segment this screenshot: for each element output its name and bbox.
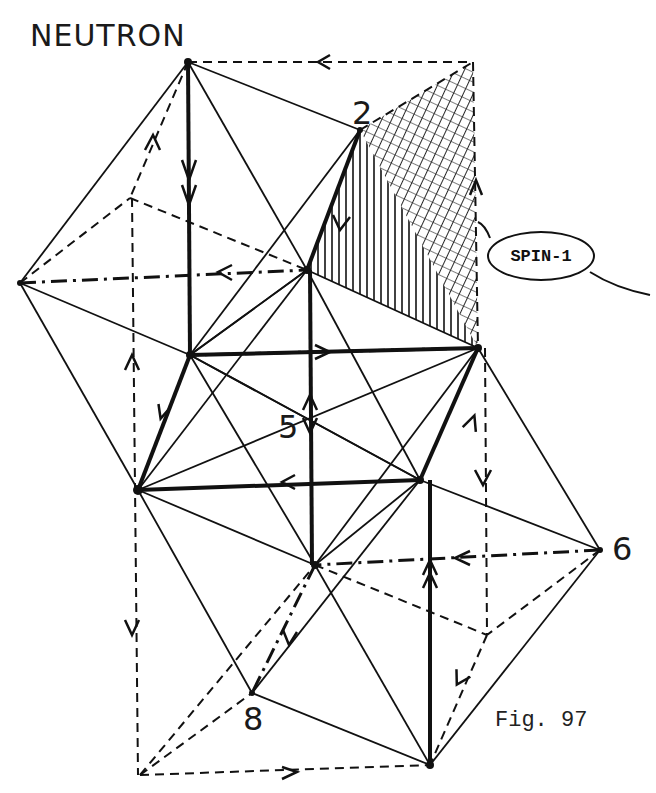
spin-1-callout: SPIN-1 (487, 231, 595, 281)
vertex-label-5: 5 (278, 408, 298, 446)
neutron-polyhedron-diagram (0, 0, 656, 793)
figure-caption: Fig. 97 (495, 708, 587, 733)
spin-1-label: SPIN-1 (510, 247, 571, 266)
vertex-label-8: 8 (243, 700, 263, 738)
diagram-title: NEUTRON (30, 18, 186, 53)
vertex-label-6: 6 (612, 530, 632, 568)
vertex-label-2: 2 (352, 94, 372, 132)
